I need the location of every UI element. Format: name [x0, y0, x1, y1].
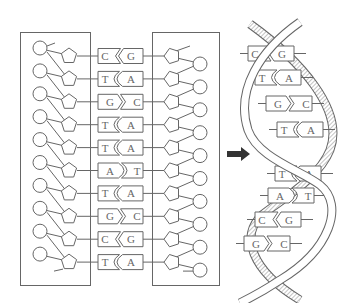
- base-pair: CG: [98, 49, 143, 64]
- base-letter-left: G: [252, 238, 260, 250]
- base-letter-right: A: [127, 73, 135, 85]
- base-pair: CG: [255, 212, 301, 227]
- base-letter-right: T: [134, 165, 141, 177]
- sugar-pentagon: [61, 48, 76, 63]
- backbone-bond: [176, 181, 194, 189]
- strand-end: [176, 46, 190, 51]
- base-letter-right: G: [127, 233, 135, 245]
- base-letter-left: G: [106, 210, 114, 222]
- phosphate-circle: [193, 126, 207, 140]
- base-letter-right: C: [280, 238, 287, 250]
- base-letter-right: A: [127, 119, 135, 131]
- phosphate-circle: [33, 41, 47, 55]
- sugar-pentagon: [164, 48, 179, 63]
- sugar-pentagon: [164, 255, 179, 270]
- base-letter-left: G: [274, 98, 282, 110]
- dna-diagram: CGTAGCTATAATTAGCCGTA CGTAGCTATAATCGGC: [0, 0, 352, 303]
- base-pair: GC: [244, 236, 290, 251]
- sugar-pentagon: [164, 117, 179, 132]
- phosphate-circle: [193, 80, 207, 94]
- base-letter-left: C: [258, 214, 265, 226]
- backbone-bond: [176, 203, 194, 211]
- base-letter-right: A: [127, 142, 135, 154]
- sugar-pentagon: [164, 140, 179, 155]
- phosphate-circle: [33, 224, 47, 238]
- base-pair: TA: [98, 186, 143, 201]
- backbone-bond: [177, 81, 194, 85]
- base-pair: TA: [98, 255, 143, 270]
- strand-end: [54, 269, 63, 271]
- base-letter-left: T: [102, 187, 109, 199]
- dna-diagram-canvas: CGTAGCTATAATTAGCCGTA CGTAGCTATAATCGGC: [0, 0, 352, 303]
- base-pair: TA: [255, 70, 301, 85]
- base-letter-left: T: [281, 124, 288, 136]
- backbone-bond: [176, 158, 194, 166]
- right-arrow-icon: [227, 147, 250, 161]
- phosphate-circle: [33, 133, 47, 147]
- base-letter-right: C: [133, 96, 140, 108]
- phosphate-circle: [193, 172, 207, 186]
- right-strand-box: [153, 33, 220, 286]
- base-pair: AT: [98, 163, 143, 178]
- base-pair: TA: [277, 122, 323, 137]
- phosphate-circle: [33, 64, 47, 78]
- phosphate-circle: [33, 87, 47, 101]
- sugar-pentagon: [164, 232, 179, 247]
- dna-ladder: CGTAGCTATAATTAGCCGTA: [21, 33, 220, 286]
- phosphate-circle: [193, 149, 207, 163]
- dna-double-helix: CGTAGCTATAATCGGC: [236, 0, 335, 303]
- backbone-bond: [177, 104, 194, 108]
- base-letter-left: G: [106, 96, 114, 108]
- base-letter-left: C: [101, 50, 108, 62]
- strand-end: [47, 43, 55, 46]
- base-pair: TA: [98, 71, 143, 86]
- base-letter-left: T: [102, 119, 109, 131]
- phosphate-circle: [193, 57, 207, 71]
- phosphate-circle: [33, 247, 47, 261]
- sugar-pentagon: [164, 163, 179, 178]
- base-letter-right: A: [127, 187, 135, 199]
- base-letter-right: C: [302, 98, 309, 110]
- base-pair: GC: [98, 209, 143, 224]
- backbone-bond: [176, 135, 194, 143]
- base-letter-right: G: [127, 50, 135, 62]
- base-pair: CG: [98, 232, 143, 247]
- sugar-pentagon: [164, 94, 179, 109]
- backbone-bond: [177, 150, 194, 154]
- base-letter-right: A: [127, 256, 135, 268]
- base-letter-left: T: [102, 73, 109, 85]
- base-letter-right: G: [278, 48, 286, 60]
- phosphate-circle: [33, 201, 47, 215]
- base-pair: GC: [98, 94, 143, 109]
- base-letter-right: A: [307, 124, 315, 136]
- base-pair: TA: [98, 117, 143, 132]
- backbone-bond: [177, 173, 194, 177]
- phosphate-circle: [193, 103, 207, 117]
- base-letter-right: C: [133, 210, 140, 222]
- backbone-bond: [176, 112, 194, 120]
- backbone-bond: [177, 127, 194, 131]
- base-letter-right: G: [285, 214, 293, 226]
- backbone-bond: [176, 89, 194, 97]
- base-letter-left: A: [106, 165, 114, 177]
- base-letter-left: T: [102, 142, 109, 154]
- base-letter-right: A: [285, 72, 293, 84]
- phosphate-circle: [33, 178, 47, 192]
- phosphate-circle: [193, 217, 207, 231]
- backbone-bond: [177, 218, 194, 222]
- base-pair: GC: [266, 96, 312, 111]
- phosphate-circle: [193, 263, 207, 277]
- backbone-bond: [177, 264, 194, 268]
- phosphate-circle: [33, 156, 47, 170]
- base-letter-left: T: [102, 256, 109, 268]
- backbone-bond: [177, 241, 194, 245]
- sugar-pentagon: [164, 209, 179, 224]
- base-pair: AT: [268, 188, 314, 203]
- backbone-bond: [176, 66, 194, 74]
- backbone-bond: [176, 249, 194, 257]
- backbone-bond: [176, 226, 194, 234]
- phosphate-circle: [193, 240, 207, 254]
- base-pair: TA: [98, 140, 143, 155]
- sugar-pentagon: [164, 71, 179, 86]
- left-strand-box: [21, 33, 91, 286]
